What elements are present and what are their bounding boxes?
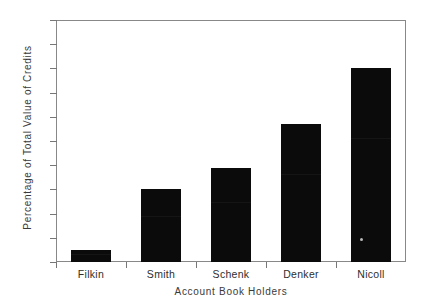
x-tick-mark xyxy=(196,262,197,268)
x-category-label: Smith xyxy=(147,268,175,280)
x-category-label: Schenk xyxy=(213,268,250,280)
y-tick-mark xyxy=(50,44,57,45)
bar-chart: Percentage of Total Value of Credits 010… xyxy=(0,0,428,307)
x-tick-mark xyxy=(336,262,337,268)
bar xyxy=(281,124,321,262)
scan-artifact-speck-icon xyxy=(360,238,363,241)
y-tick-mark xyxy=(50,68,57,69)
y-tick-mark xyxy=(50,141,57,142)
bar xyxy=(351,68,391,262)
y-tick-mark xyxy=(50,238,57,239)
bar xyxy=(71,250,111,262)
x-tick-mark xyxy=(56,262,57,268)
y-tick-mark xyxy=(50,165,57,166)
x-category-label: Nicoll xyxy=(357,268,384,280)
x-tick-mark xyxy=(266,262,267,268)
y-tick-mark xyxy=(50,20,57,21)
bar xyxy=(211,168,251,262)
y-tick-mark xyxy=(50,214,57,215)
x-axis-title: Account Book Holders xyxy=(56,286,406,297)
x-category-label: Denker xyxy=(283,268,319,280)
y-tick-mark xyxy=(50,93,57,94)
bar xyxy=(141,189,181,262)
y-tick-mark xyxy=(50,189,57,190)
y-tick-mark xyxy=(50,117,57,118)
x-tick-mark xyxy=(126,262,127,268)
y-axis-title: Percentage of Total Value of Credits xyxy=(22,13,33,263)
x-category-label: Filkin xyxy=(78,268,104,280)
